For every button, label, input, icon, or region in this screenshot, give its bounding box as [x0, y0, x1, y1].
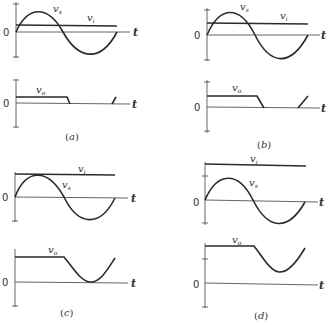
- time-axis: [15, 197, 128, 198]
- vo-label: vo: [36, 84, 46, 96]
- vo-waveform: [205, 246, 305, 272]
- panel-d: 0 t vi vs 0 t vo (d): [193, 153, 324, 321]
- vs-sine-wave: [16, 12, 117, 54]
- vi-level-line: [16, 25, 117, 26]
- zero-label: 0: [3, 27, 9, 38]
- time-axis: [205, 283, 318, 285]
- panel-d-bottom-plot: 0 t vo: [193, 234, 324, 308]
- vi-label: vi: [78, 163, 86, 175]
- vo-waveform: [15, 257, 115, 282]
- time-axis: [205, 200, 318, 202]
- vi-label: vi: [280, 10, 288, 22]
- panel-c: 0 t vi vs 0 t vo (c): [2, 163, 136, 318]
- vs-label: vs: [53, 3, 62, 15]
- t-axis-label: t: [319, 196, 324, 209]
- t-axis-label: t: [319, 279, 324, 292]
- zero-label: 0: [2, 277, 8, 288]
- vo-waveform: [207, 96, 264, 108]
- caption-d: (d): [254, 310, 268, 321]
- vo-waveform-rise: [112, 97, 116, 104]
- zero-label: 0: [194, 30, 200, 41]
- vo-label: vo: [232, 82, 242, 94]
- caption-b: (b): [257, 139, 271, 150]
- panel-c-top-plot: 0 t vi vs: [2, 163, 136, 222]
- vs-label: vs: [62, 179, 71, 191]
- vo-label: vo: [48, 244, 58, 256]
- vi-label: vi: [87, 12, 95, 24]
- zero-label: 0: [193, 197, 199, 208]
- caption-a: (a): [65, 131, 79, 142]
- t-axis-label: t: [321, 102, 326, 115]
- panel-a-top-plot: 0 t vs vi: [3, 2, 138, 58]
- panel-b: 0 t vs vi 0 t vo (b): [194, 1, 326, 150]
- zero-label: 0: [2, 192, 8, 203]
- caption-c: (c): [60, 307, 74, 318]
- zero-label: 0: [194, 102, 200, 113]
- vo-label: vo: [232, 234, 242, 246]
- panel-d-top-plot: 0 t vi vs: [193, 153, 324, 225]
- panel-b-top-plot: 0 t vs vi: [194, 1, 326, 61]
- panel-b-bottom-plot: 0 t vo: [194, 80, 326, 133]
- t-axis-label: t: [131, 192, 136, 205]
- time-axis: [15, 282, 128, 283]
- t-axis-label: t: [132, 98, 137, 111]
- panel-a: 0 t vs vi 0 t vo (a): [3, 2, 138, 142]
- vs-sine-wave: [207, 13, 308, 59]
- t-axis-label: t: [131, 277, 136, 290]
- panel-c-bottom-plot: 0 t vo: [2, 244, 136, 307]
- t-axis-label: t: [133, 26, 138, 39]
- zero-label: 0: [3, 98, 9, 109]
- vi-level-line: [207, 23, 308, 24]
- waveform-figure: 0 t vs vi 0 t vo (a) 0 t: [0, 0, 329, 321]
- vs-label: vs: [240, 1, 249, 13]
- t-axis-label: t: [321, 29, 326, 42]
- vi-label: vi: [250, 153, 258, 165]
- vi-level-line: [15, 174, 115, 175]
- vs-label: vs: [249, 177, 258, 189]
- zero-label: 0: [193, 279, 199, 290]
- vo-waveform-rise: [298, 96, 308, 108]
- panel-a-bottom-plot: 0 t vo: [3, 79, 137, 128]
